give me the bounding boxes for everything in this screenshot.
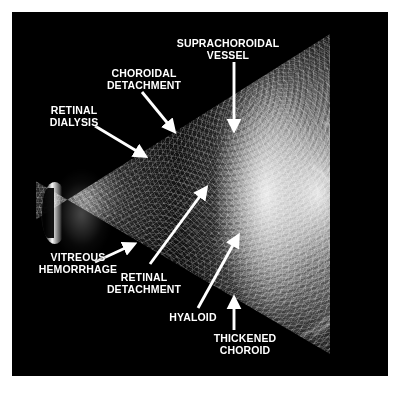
label-choroidal-detachment: CHOROIDAL DETACHMENT xyxy=(92,68,196,91)
label-suprachoroidal-vessel: SUPRACHOROIDAL VESSEL xyxy=(168,38,288,61)
figure-root: SUPRACHOROIDAL VESSEL CHOROIDAL DETACHME… xyxy=(0,0,401,395)
label-retinal-detachment: RETINAL DETACHMENT xyxy=(92,272,196,295)
label-hyaloid: HYALOID xyxy=(160,312,226,324)
anterior-chamber xyxy=(42,188,54,238)
vitreous-hemorrhage-haze xyxy=(56,168,120,260)
label-thickened-choroid: THICKENED CHOROID xyxy=(198,333,292,356)
label-retinal-dialysis: RETINAL DIALYSIS xyxy=(36,105,112,128)
